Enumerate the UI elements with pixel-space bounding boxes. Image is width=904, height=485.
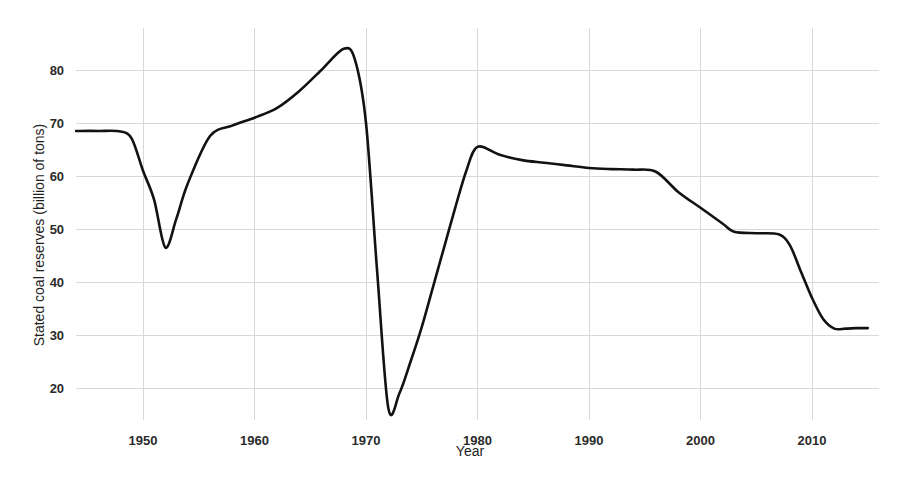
- x-tick-label: 1970: [352, 433, 381, 448]
- y-tick-labels: 20304050607080: [50, 63, 64, 396]
- x-tick-label: 2010: [798, 433, 827, 448]
- data-series-line: [76, 48, 868, 415]
- y-tick-label: 20: [50, 381, 64, 396]
- gridlines: [76, 28, 879, 420]
- line-chart: 20304050607080 1950196019701980199020002…: [0, 0, 904, 485]
- x-tick-label: 1960: [240, 433, 269, 448]
- x-tick-label: 2000: [686, 433, 715, 448]
- x-tick-label: 1990: [575, 433, 604, 448]
- y-tick-label: 80: [50, 63, 64, 78]
- y-tick-label: 50: [50, 222, 64, 237]
- x-axis-title: Year: [456, 443, 485, 459]
- y-tick-label: 70: [50, 116, 64, 131]
- y-tick-label: 60: [50, 169, 64, 184]
- chart-page: 20304050607080 1950196019701980199020002…: [0, 0, 904, 485]
- y-tick-label: 30: [50, 328, 64, 343]
- x-tick-label: 1950: [129, 433, 158, 448]
- y-tick-label: 40: [50, 275, 64, 290]
- y-axis-title: Stated coal reserves (billion of tons): [31, 124, 47, 347]
